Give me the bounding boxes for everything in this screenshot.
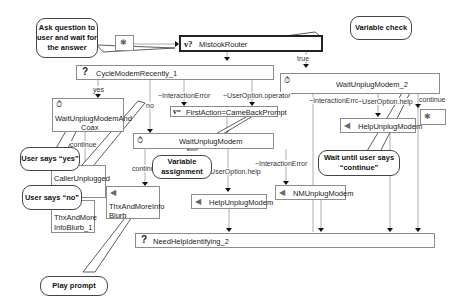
node-label: WaitUnplugModem_2 xyxy=(336,80,408,89)
thx-more-info-blurb-node[interactable]: ◀ ThxAndMoreInfo Blurb xyxy=(106,186,160,219)
speaker-icon: ◀ xyxy=(110,189,116,197)
node-label: CycleModemRecently_1 xyxy=(96,69,177,78)
variable-assign-icon: ν= xyxy=(173,108,181,116)
start-icon: ✱ xyxy=(120,39,127,47)
callout-tail-ask xyxy=(97,45,175,52)
node-label-line2: InfoBlurb_1 xyxy=(54,223,92,232)
edge-label-interaction-error-2: ~InteractionError xyxy=(309,97,361,104)
callout-wait-continue: Wait until user says “continue” xyxy=(318,150,400,176)
wait-unplug-modem-node[interactable]: ⏱ WaitUnplugModem xyxy=(133,133,274,149)
node-label-line1: CallerUnplugged xyxy=(54,174,110,183)
node-label: MistookRouter xyxy=(199,40,247,49)
node-label: WaitUnplugModem xyxy=(179,137,243,146)
edge-label-user-option-help-2: ~UserOption.help xyxy=(206,168,261,175)
wait-icon: ⏱ xyxy=(284,77,290,85)
wait-icon: ⏱ xyxy=(56,101,62,109)
first-action-node[interactable]: ν= FirstAction=CameBackPrompt xyxy=(170,106,278,117)
speaker-icon: ◀ xyxy=(279,189,285,197)
edge-label-user-option-help-1: ~UserOption.help xyxy=(358,98,413,105)
question-icon: ? xyxy=(82,68,88,76)
node-label: HelpUnplugModem xyxy=(358,122,422,131)
node-label: NMUnplugModem xyxy=(293,189,353,198)
dialog-flow-diagram: ✱ ν? MistookRouter ? CycleModemRecently_… xyxy=(0,0,463,305)
edge-label-continue-1: continue xyxy=(419,96,445,103)
pause-node[interactable]: ✱ xyxy=(420,109,446,125)
edge-label-interaction-error-1: ~InteractionError xyxy=(158,92,210,99)
wait-unplug-and-coax-node[interactable]: ⏱ WaitUnplugModemAnd Coax xyxy=(52,98,124,132)
edge-label-yes: yes xyxy=(93,86,104,93)
callout-ask-question: Ask question to user and wait for the an… xyxy=(36,18,98,58)
help-unplug-modem-mid-node[interactable]: ◀ HelpUnplugModem xyxy=(191,194,267,209)
wait-icon: ⏱ xyxy=(137,137,143,145)
edge-label-true: true xyxy=(297,55,309,62)
need-help-identifying-node[interactable]: ? NeedHelpIdentifying_2 xyxy=(135,233,435,248)
node-label-line1: ThxAndMore xyxy=(54,213,97,222)
node-label-line2: Coax xyxy=(81,123,99,132)
cycle-modem-recently-node[interactable]: ? CycleModemRecently_1 xyxy=(76,65,274,80)
callout-user-says-yes: User says “yes” xyxy=(20,147,80,171)
help-unplug-modem-right-node[interactable]: ◀ HelpUnplugModem xyxy=(340,118,416,133)
callout-user-says-no: User says “no” xyxy=(22,185,82,210)
variable-check-icon: ν? xyxy=(184,40,193,48)
node-label: NeedHelpIdentifying_2 xyxy=(153,237,229,246)
node-label-line1: WaitUnplugModemAnd xyxy=(55,114,132,123)
callout-play-prompt: Play prompt xyxy=(40,276,108,296)
pause-icon: ✱ xyxy=(424,113,431,121)
wait-unplug-modem-2-node[interactable]: ⏱ WaitUnplugModem_2 xyxy=(280,73,440,94)
node-label-line1: ThxAndMoreInfo xyxy=(109,202,164,211)
edge-label-user-option-operator: ~UserOption.operator xyxy=(223,92,291,99)
nm-unplug-modem-node[interactable]: ◀ NMUnplugModem xyxy=(275,185,346,200)
callout-variable-check: Variable check xyxy=(350,16,412,40)
edge-label-no: no xyxy=(146,102,154,109)
node-label-line2: Blurb xyxy=(109,211,127,220)
question-icon: ? xyxy=(141,236,147,244)
edge-label-interaction-error-3: ~InteractionError xyxy=(255,160,307,167)
speaker-icon: ◀ xyxy=(195,198,201,206)
node-label: HelpUnplugModem xyxy=(209,198,273,207)
speaker-icon: ◀ xyxy=(344,122,350,130)
mistook-router-node[interactable]: ν? MistookRouter xyxy=(179,35,323,52)
node-label: FirstAction=CameBackPrompt xyxy=(186,108,287,117)
start-node[interactable]: ✱ xyxy=(115,35,134,51)
callout-variable-assignment: Variable assignment xyxy=(152,155,212,179)
